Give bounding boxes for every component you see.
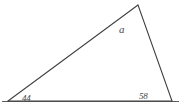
apex-angle-label: a bbox=[119, 24, 125, 35]
triangle-diagram: a 44 58 bbox=[0, 0, 179, 110]
right-base-angle-label: 58 bbox=[139, 92, 147, 101]
left-base-angle-label: 44 bbox=[22, 94, 30, 103]
